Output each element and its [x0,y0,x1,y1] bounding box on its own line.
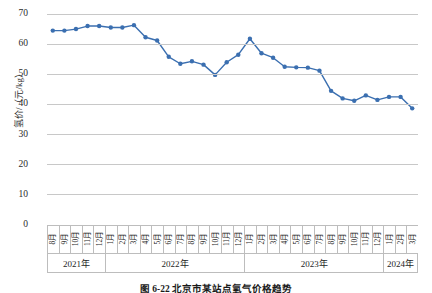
figure-container: 氢价/（元/kg） 010203040506070 8月9月10月11月12月1… [0,0,432,293]
data-point-marker [352,99,356,103]
data-point-marker [85,24,89,28]
x-tick-month: 2月 [395,225,407,254]
x-tick-month: 10月 [209,225,221,254]
x-tick-month: 1月 [244,225,256,254]
figure-caption: 图 6-22 北京市某站点氢气价格趋势 [0,281,432,293]
x-tick-month: 9月 [198,225,210,254]
data-point-marker [410,106,414,110]
x-tick-month-label: 6月 [305,234,313,245]
data-point-marker [143,35,147,39]
x-tick-month: 2月 [117,225,129,254]
x-tick-month-label: 11月 [84,232,92,246]
data-point-marker [51,28,55,32]
y-tick-label: 40 [0,99,28,109]
data-point-marker [155,38,159,42]
x-tick-month-label: 11月 [363,232,371,246]
x-tick-month: 3月 [267,225,279,254]
x-tick-month-label: 12月 [96,232,104,247]
data-point-marker [190,59,194,63]
x-tick-month-label: 4月 [281,234,289,245]
data-point-marker [387,95,391,99]
data-point-marker [62,28,66,32]
x-tick-month-label: 7月 [177,234,185,245]
x-tick-month: 2月 [256,225,268,254]
x-tick-month-label: 1月 [108,234,116,245]
x-tick-month: 6月 [302,225,314,254]
data-point-marker [225,60,229,64]
gridline [47,14,418,15]
x-tick-month: 10月 [70,225,82,254]
x-axis-year-group: 2023年 [244,254,383,273]
x-tick-month-label: 12月 [374,232,382,247]
x-axis-year-group: 2024年 [383,254,418,273]
gridline [47,194,418,195]
x-tick-month-label: 3月 [270,234,278,245]
gridline [47,164,418,165]
data-point-marker [375,98,379,102]
x-tick-month: 8月 [325,225,337,254]
x-tick-month: 12月 [93,225,105,254]
gridline [47,44,418,45]
data-point-marker [364,93,368,97]
y-tick-label: 0 [0,220,28,230]
x-tick-month: 6月 [163,225,175,254]
x-tick-month-label: 4月 [142,234,150,245]
x-tick-month: 4月 [140,225,152,254]
x-tick-month: 7月 [175,225,187,254]
x-tick-month: 11月 [221,225,233,254]
x-tick-month: 11月 [360,225,372,254]
data-point-marker [74,27,78,31]
y-tick-label: 70 [0,9,28,19]
data-point-marker [109,25,113,29]
x-tick-month-label: 10月 [73,232,81,247]
data-point-marker [306,65,310,69]
x-tick-month: 1月 [383,225,395,254]
x-tick-month: 1月 [105,225,117,254]
y-tick-label: 20 [0,160,28,170]
x-tick-month-label: 2月 [397,234,405,245]
x-tick-month-label: 2月 [258,234,266,245]
x-tick-month: 9月 [337,225,349,254]
x-tick-month-label: 12月 [235,232,243,247]
x-axis-year-group: 2021年 [47,254,105,273]
x-tick-month-label: 8月 [328,234,336,245]
x-tick-month-label: 3月 [131,234,139,245]
y-tick-label: 50 [0,69,28,79]
gridline [47,74,418,75]
data-point-marker [340,96,344,100]
x-tick-month-label: 2月 [119,234,127,245]
x-tick-month-label: 8月 [189,234,197,245]
x-tick-month-label: 7月 [316,234,324,245]
data-point-marker [97,24,101,28]
x-tick-month: 8月 [47,225,59,254]
x-tick-month-label: 10月 [212,232,220,247]
x-tick-month-label: 1月 [386,234,394,245]
x-tick-month: 8月 [186,225,198,254]
x-axis-year-group: 2022年 [105,254,244,273]
x-tick-month: 5月 [151,225,163,254]
x-tick-month: 5月 [290,225,302,254]
x-tick-month-label: 8月 [50,234,58,245]
data-point-marker [120,25,124,29]
x-tick-month: 4月 [279,225,291,254]
data-point-marker [271,56,275,60]
x-tick-month: 7月 [314,225,326,254]
x-tick-month: 11月 [82,225,94,254]
plot-area: 010203040506070 [47,14,418,225]
x-tick-month: 12月 [233,225,245,254]
x-tick-month-label: 5月 [293,234,301,245]
data-point-marker [294,65,298,69]
data-point-marker [317,68,321,72]
gridline [47,104,418,105]
data-point-marker [398,95,402,99]
data-point-marker [178,62,182,66]
y-tick-label: 60 [0,39,28,49]
data-point-marker [167,55,171,59]
y-tick-label: 10 [0,190,28,200]
x-tick-month: 3月 [128,225,140,254]
data-point-marker [282,65,286,69]
x-tick-month-label: 9月 [61,234,69,245]
data-point-marker [132,23,136,27]
x-tick-month-label: 3月 [409,234,417,245]
x-tick-month: 9月 [59,225,71,254]
